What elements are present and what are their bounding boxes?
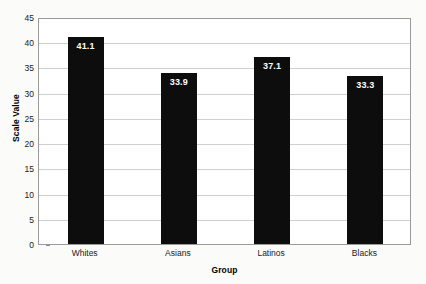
x-tick-label: Latinos	[257, 249, 284, 258]
y-tick-label: 0	[12, 241, 34, 250]
bar[interactable]: 33.3	[347, 76, 383, 244]
x-axis-tick-labels: WhitesAsiansLatinosBlacks	[38, 249, 411, 263]
y-tick-label: 30	[12, 89, 34, 98]
x-axis-title: Group	[38, 265, 411, 275]
bars-group: 41.133.937.133.3	[39, 19, 410, 244]
bar-chart-figure: Scale Value 051015202530354045 41.133.93…	[0, 0, 426, 284]
bar-value-label: 41.1	[68, 42, 104, 51]
bar[interactable]: 41.1	[68, 37, 104, 244]
plot-area: 41.133.937.133.3	[38, 18, 411, 245]
y-tick-label: 25	[12, 115, 34, 124]
y-tick-label: 15	[12, 165, 34, 174]
bar[interactable]: 33.9	[161, 73, 197, 244]
x-tick-label: Whites	[72, 249, 98, 258]
y-tick-label: 10	[12, 190, 34, 199]
bar-value-label: 33.3	[347, 81, 383, 90]
bar[interactable]: 37.1	[254, 57, 290, 244]
y-axis-tick-labels: 051015202530354045	[12, 18, 34, 245]
bar-value-label: 33.9	[161, 78, 197, 87]
y-tick-mark	[46, 245, 50, 246]
x-tick-label: Asians	[165, 249, 191, 258]
y-tick-label: 20	[12, 140, 34, 149]
y-tick-label: 40	[12, 39, 34, 48]
y-tick-label: 35	[12, 64, 34, 73]
y-tick-label: 45	[12, 14, 34, 23]
bar-value-label: 37.1	[254, 62, 290, 71]
x-tick-label: Blacks	[352, 249, 377, 258]
y-tick-label: 5	[12, 216, 34, 225]
